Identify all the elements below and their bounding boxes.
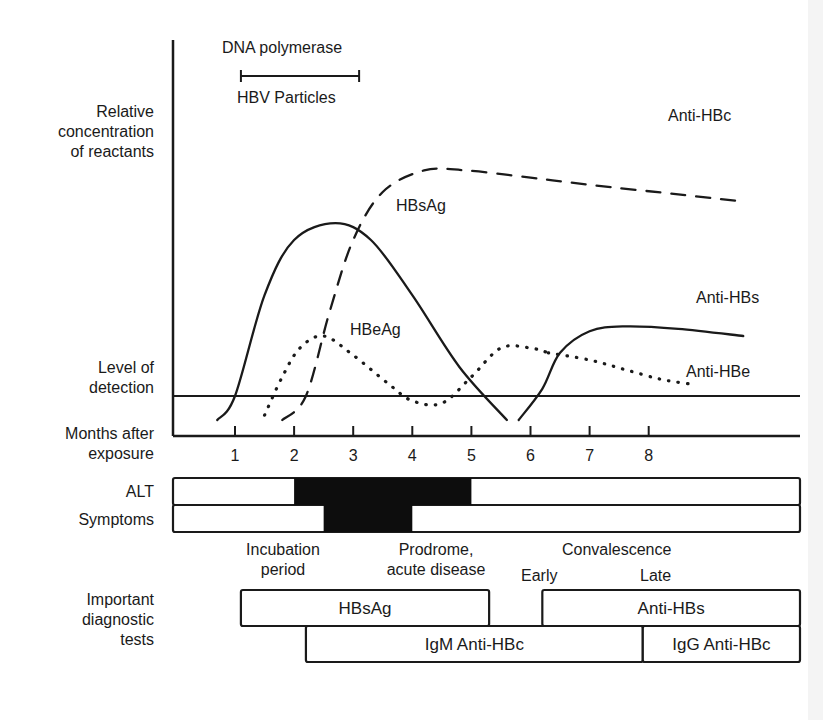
anti-hbe-label: Anti-HBe	[686, 362, 750, 382]
alt-label: ALT	[0, 482, 154, 502]
x-tick-label: 8	[644, 447, 653, 464]
phase-label-line: period	[228, 560, 338, 580]
early-label: Early	[521, 566, 557, 586]
test-label: Anti-HBs	[638, 599, 705, 618]
dna-polymerase-label: DNA polymerase	[222, 38, 342, 58]
phase-label-line: acute disease	[368, 560, 504, 580]
anti-hbc-label: Anti-HBc	[668, 106, 731, 126]
detection-label-line: detection	[0, 378, 154, 398]
y-axis-label-line: of reactants	[0, 142, 154, 162]
y-axis-label: Relative concentration of reactants	[0, 102, 154, 162]
curve-hbeag	[265, 336, 549, 415]
bar-row-symptoms	[173, 505, 800, 532]
prodrome-label: Prodrome, acute disease	[368, 540, 504, 580]
curve-anti-hbc	[282, 168, 743, 420]
x-tick-label: 7	[585, 447, 594, 464]
bar-row-alt	[173, 478, 800, 505]
late-label: Late	[640, 566, 671, 586]
hbeag-label: HBeAg	[350, 320, 401, 340]
anti-hbs-label: Anti-HBs	[696, 288, 759, 308]
x-tick-label: 3	[349, 447, 358, 464]
test-label: IgM Anti-HBc	[425, 635, 525, 654]
tests-label-line: Important	[0, 590, 154, 610]
incubation-period-label: Incubation period	[228, 540, 338, 580]
detection-label-line: Level of	[0, 358, 154, 378]
x-tick-label: 1	[231, 447, 240, 464]
phase-label-line: Incubation	[228, 540, 338, 560]
convalescence-label: Convalescence	[562, 540, 671, 560]
y-axis-label-line: concentration	[0, 122, 154, 142]
x-tick-label: 2	[290, 447, 299, 464]
test-label: HBsAg	[339, 599, 392, 618]
x-tick-label: 6	[526, 447, 535, 464]
phase-label-line: Prodrome,	[368, 540, 504, 560]
y-axis-label-line: Relative	[0, 102, 154, 122]
tests-label-line: tests	[0, 630, 154, 650]
x-axis-label-line: exposure	[0, 444, 154, 464]
x-tick-label: 5	[467, 447, 476, 464]
curves	[217, 168, 743, 420]
x-axis-label-line: Months after	[0, 424, 154, 444]
hbv-particles-label: HBV Particles	[237, 88, 336, 108]
detection-label: Level of detection	[0, 358, 154, 398]
tests-label-line: diagnostic	[0, 610, 154, 630]
bar-fill-alt	[294, 478, 471, 505]
x-axis-label: Months after exposure	[0, 424, 154, 464]
symptom-bars	[173, 478, 800, 532]
curve-anti-hbe	[548, 353, 690, 384]
bar-fill-symptoms	[324, 505, 413, 532]
diagnostic-test-boxes: HBsAgAnti-HBsIgM Anti-HBcIgG Anti-HBc	[241, 590, 800, 662]
hbsag-label: HBsAg	[396, 196, 446, 216]
symptoms-label: Symptoms	[0, 510, 154, 530]
test-label: IgG Anti-HBc	[672, 635, 771, 654]
tests-label: Important diagnostic tests	[0, 590, 154, 650]
x-tick-label: 4	[408, 447, 417, 464]
